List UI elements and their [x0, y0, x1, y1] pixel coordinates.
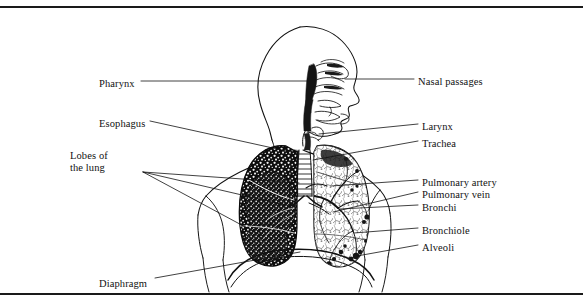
label-pulmonary-vein: Pulmonary vein	[422, 189, 490, 202]
leader-esophagus	[150, 121, 291, 152]
leader-larynx	[319, 124, 418, 134]
respiratory-system-figure: Pharynx Esophagus Lobes of the lung Diap…	[0, 0, 583, 308]
label-trachea: Trachea	[422, 138, 456, 151]
label-lobes-line1: Lobes of	[70, 150, 108, 163]
label-lobes-line2: the lung	[70, 162, 105, 175]
label-alveoli: Alveoli	[422, 242, 454, 255]
label-larynx: Larynx	[422, 121, 453, 134]
label-pulmonary-artery: Pulmonary artery	[422, 177, 497, 190]
lung-left-lobes	[234, 143, 297, 266]
label-diaphragm: Diaphragm	[99, 278, 147, 291]
label-pharynx: Pharynx	[99, 78, 135, 91]
label-bronchiole: Bronchiole	[422, 225, 470, 238]
label-nasal-passages: Nasal passages	[418, 76, 483, 89]
label-bronchi: Bronchi	[422, 202, 457, 215]
label-esophagus: Esophagus	[99, 118, 145, 131]
leader-alveoli	[357, 245, 418, 256]
